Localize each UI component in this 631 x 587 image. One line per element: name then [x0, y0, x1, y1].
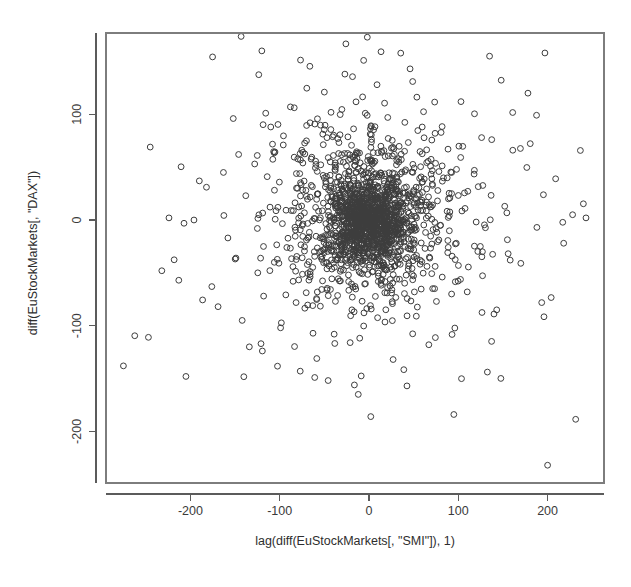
x-tick-label: -100: [267, 504, 292, 518]
y-tick-label: -200: [70, 419, 84, 444]
y-tick-label: 0: [70, 216, 84, 223]
y-tick-label: 100: [70, 104, 84, 125]
x-tick-label: 0: [366, 504, 373, 518]
scatter-plot-figure: -200-1000100200 1000-100-200 lag(diff(Eu…: [0, 0, 631, 587]
x-tick-label: 200: [537, 504, 558, 518]
scatter-plot-canvas: -200-1000100200 1000-100-200 lag(diff(Eu…: [0, 0, 631, 587]
x-tick-label: 100: [448, 504, 469, 518]
x-tick-label: -200: [178, 504, 203, 518]
y-axis-title: diff(EuStockMarkets[, "DAX"]): [26, 171, 40, 335]
y-tick-label: -100: [70, 313, 84, 338]
x-axis-title: lag(diff(EuStockMarkets[, "SMI"]), 1): [255, 534, 455, 548]
